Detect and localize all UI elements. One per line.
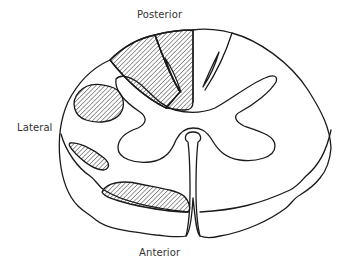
anterior-label: Anterior — [139, 247, 180, 258]
anterior-column-tract — [102, 182, 190, 212]
lateral-column-anterior-tract — [69, 143, 108, 170]
spinal-cord-diagram — [0, 0, 347, 267]
posterior-label: Posterior — [137, 9, 182, 20]
central-canal-fissure — [185, 132, 200, 236]
spinal-cord-outer-boundary — [59, 29, 331, 237]
lateral-column-posterior-tract — [74, 85, 123, 122]
lateral-label: Lateral — [17, 122, 53, 133]
